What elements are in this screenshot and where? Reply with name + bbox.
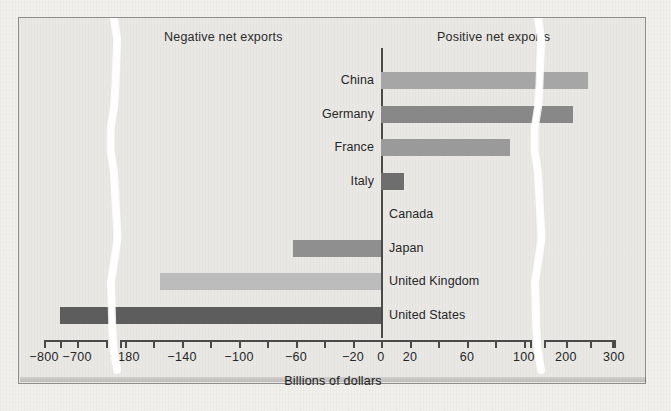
axis-tick [77,340,79,348]
axis-tick [566,340,568,348]
axis-segment-cap [120,340,122,348]
axis-tick-label: −700 [62,350,91,364]
axis-tick-label: 20 [403,350,418,364]
axis-tick [267,340,269,348]
axis-tick-label: 60 [460,350,475,364]
bar-japan [293,240,381,257]
bar-france [381,139,510,156]
axis-tick-label: −100 [224,350,253,364]
category-label-china: China [341,73,374,87]
axis-break-ribbon [106,18,122,385]
axis-tick [438,340,440,348]
plot-area: Negative net exports Positive net export… [19,18,647,385]
chart-figure: Negative net exports Positive net export… [18,17,646,384]
axis-line-segment [544,340,614,342]
axis-tick [60,340,62,348]
axis-tick [495,340,497,348]
bar-germany [381,106,573,123]
axis-tick-label: −180 [110,350,139,364]
category-label-canada: Canada [389,207,433,221]
axis-tick-label: −20 [342,350,364,364]
axis-tick [296,340,298,348]
axis-tick-label: 100 [513,350,535,364]
axis-tick-label: 0 [377,350,384,364]
axis-segment-cap [530,340,532,348]
bar-china [381,72,588,89]
axis-segment-cap [106,340,108,348]
axis-line-segment [44,340,108,342]
axis-tick [44,340,46,348]
axis-tick [353,340,355,348]
zero-axis-line [381,48,383,338]
category-label-germany: Germany [322,107,374,121]
bar-italy [381,173,404,190]
axis-tick [182,340,184,348]
axis-segment-cap [544,340,546,348]
category-label-united-kingdom: United Kingdom [389,274,479,288]
axis-tick [153,340,155,348]
category-label-france: France [334,140,374,154]
axis-tick-label: 300 [603,350,625,364]
axis-tick [524,340,526,348]
bar-united-kingdom [160,273,381,290]
axis-tick [614,340,616,348]
axis-tick [381,340,383,348]
axis-tick [590,340,592,348]
axis-tick [324,340,326,348]
category-label-japan: Japan [389,241,424,255]
axis-tick-label: 200 [555,350,577,364]
axis-tick-label: −800 [29,350,58,364]
axis-tick [239,340,241,348]
bar-united-states [60,307,381,324]
axis-tick [467,340,469,348]
figure-bottom-shadow [20,377,646,382]
category-label-united-states: United States [389,308,465,322]
figure-page: Negative net exports Positive net export… [0,0,671,411]
axis-tick-label: −60 [285,350,307,364]
axis-tick [125,340,127,348]
positive-region-label: Positive net exports [437,30,550,44]
category-label-italy: Italy [351,174,374,188]
negative-region-label: Negative net exports [164,30,283,44]
axis-tick-label: −140 [167,350,196,364]
axis-tick [210,340,212,348]
axis-tick [410,340,412,348]
